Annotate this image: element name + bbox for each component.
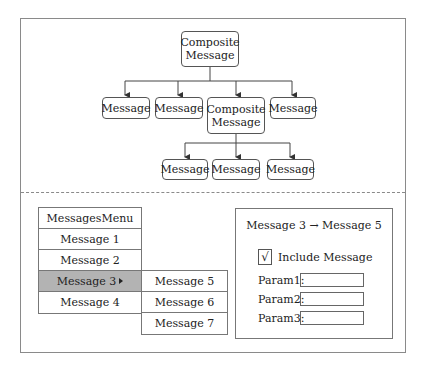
node-label: Message — [211, 116, 260, 129]
messages-menu: MessagesMenu Message 1 Message 2 Message… — [38, 207, 142, 314]
dialog-title: Message 3 → Message 5 — [236, 219, 392, 232]
param1-row: Param1: — [258, 273, 364, 287]
menu-item-label: Message 5 — [155, 275, 215, 288]
include-message-checkbox[interactable]: √ — [258, 249, 272, 265]
node-label: Message — [185, 49, 234, 62]
menu-title-label: MessagesMenu — [47, 212, 134, 225]
checkbox-label: Include Message — [278, 251, 372, 264]
param1-input[interactable] — [300, 273, 364, 287]
submenu-arrow-icon — [119, 278, 123, 284]
param2-input[interactable] — [300, 292, 364, 306]
node-label: Message — [211, 163, 260, 176]
menu-item-label: Message 1 — [60, 233, 120, 246]
param2-label: Param2: — [258, 293, 300, 306]
menu-item-label: Message 4 — [60, 296, 120, 309]
node-label: Message — [160, 163, 209, 176]
composite-message-node: Composite Message — [207, 97, 265, 134]
menu-item-message-2[interactable]: Message 2 — [39, 250, 141, 271]
message-node: Message — [162, 159, 208, 180]
message-dialog: Message 3 → Message 5 √ Include Message … — [235, 208, 393, 339]
node-label: Message — [266, 163, 315, 176]
node-label: Message — [101, 102, 150, 115]
checkmark-icon: √ — [261, 250, 269, 264]
submenu-item-message-7[interactable]: Message 7 — [142, 313, 227, 334]
node-label: Composite — [206, 103, 265, 116]
menu-item-message-3[interactable]: Message 3 — [39, 271, 141, 292]
menu-item-message-4[interactable]: Message 4 — [39, 292, 141, 313]
root-composite-message-node: Composite Message — [181, 31, 239, 67]
node-label: Message — [268, 102, 317, 115]
menu-item-label: Message 6 — [155, 296, 215, 309]
message-node: Message — [270, 97, 316, 119]
menu-item-message-1[interactable]: Message 1 — [39, 229, 141, 250]
param3-row: Param3: — [258, 311, 364, 325]
message-node: Message — [267, 159, 314, 180]
param3-label: Param3: — [258, 312, 300, 325]
submenu: Message 5 Message 6 Message 7 — [141, 270, 228, 335]
menu-item-label: Message 7 — [155, 317, 215, 330]
menu-item-label: Message 2 — [60, 254, 120, 267]
param1-label: Param1: — [258, 274, 300, 287]
param3-input[interactable] — [300, 311, 364, 325]
node-label: Message — [154, 102, 203, 115]
node-label: Composite — [180, 36, 239, 49]
message-node: Message — [102, 97, 150, 119]
menu-item-label: Message 3 — [57, 275, 117, 288]
param2-row: Param2: — [258, 292, 364, 306]
include-message-row: √ Include Message — [258, 249, 372, 265]
message-node: Message — [212, 159, 260, 180]
menu-title: MessagesMenu — [39, 208, 141, 229]
submenu-item-message-6[interactable]: Message 6 — [142, 292, 227, 313]
submenu-item-message-5[interactable]: Message 5 — [142, 271, 227, 292]
message-node: Message — [155, 97, 203, 119]
